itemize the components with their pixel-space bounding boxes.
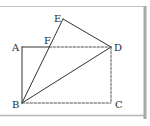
labels-group: AFEDBC [11, 13, 123, 110]
segment-ed [63, 19, 111, 47]
point-label-a: A [11, 42, 20, 53]
point-label-b: B [12, 99, 19, 110]
point-label-d: D [114, 42, 122, 53]
point-label-e: E [54, 13, 61, 24]
segments-group [22, 19, 111, 103]
frame-right-bar [144, 6, 147, 119]
point-label-c: C [115, 99, 123, 110]
point-label-f: F [44, 35, 51, 46]
geometry-diagram: AFEDBC [0, 0, 150, 126]
